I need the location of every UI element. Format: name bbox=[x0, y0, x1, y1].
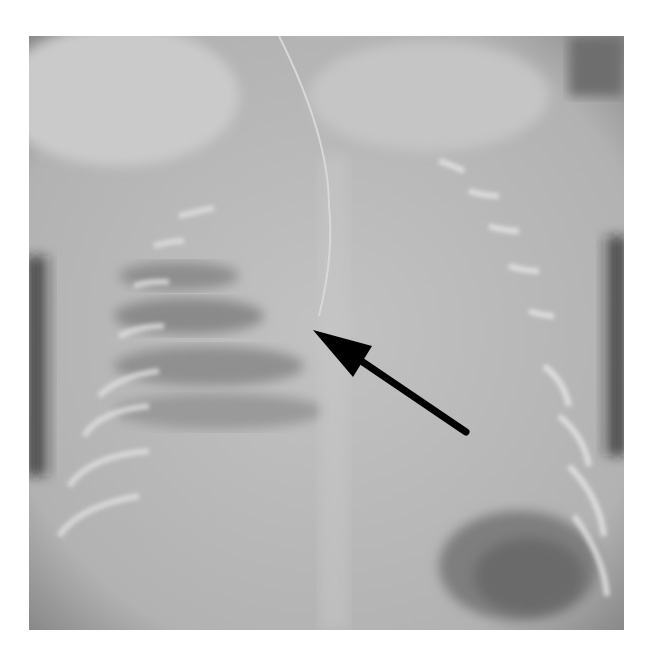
xray-image bbox=[29, 36, 624, 630]
xray-anatomy bbox=[29, 36, 624, 630]
